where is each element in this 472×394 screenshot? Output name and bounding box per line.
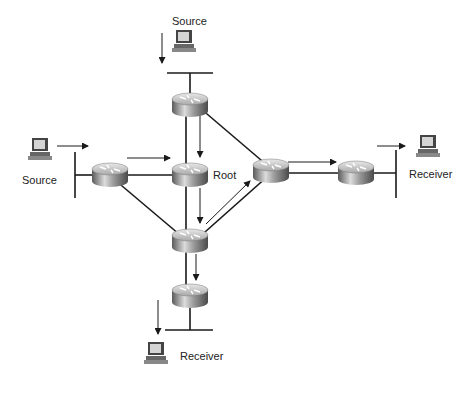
lan-bars bbox=[75, 73, 396, 330]
router-root bbox=[172, 163, 208, 187]
label-receiver-right: Receiver bbox=[409, 168, 452, 180]
arrow-middle-to-rightcenter bbox=[206, 181, 250, 224]
router-middle-lower bbox=[172, 229, 208, 253]
router-right bbox=[338, 161, 374, 185]
link-top-rightcenter bbox=[200, 108, 268, 166]
router-left bbox=[92, 163, 128, 187]
router-right-center bbox=[253, 159, 289, 183]
label-source-top: Source bbox=[172, 15, 207, 27]
pc-source-left-icon bbox=[28, 138, 52, 160]
router-top bbox=[172, 93, 208, 117]
link-left-middle bbox=[115, 180, 186, 240]
label-source-left: Source bbox=[22, 174, 57, 186]
link-middle-rightcenter bbox=[196, 176, 268, 240]
links bbox=[75, 73, 396, 330]
pc-receiver-bottom-icon bbox=[144, 342, 168, 364]
label-root: Root bbox=[213, 169, 236, 181]
pc-receiver-right-icon bbox=[416, 135, 440, 157]
network-diagram bbox=[0, 0, 472, 394]
pc-source-top-icon bbox=[172, 30, 196, 52]
router-bottom bbox=[172, 284, 208, 308]
label-receiver-bottom: Receiver bbox=[180, 350, 223, 362]
